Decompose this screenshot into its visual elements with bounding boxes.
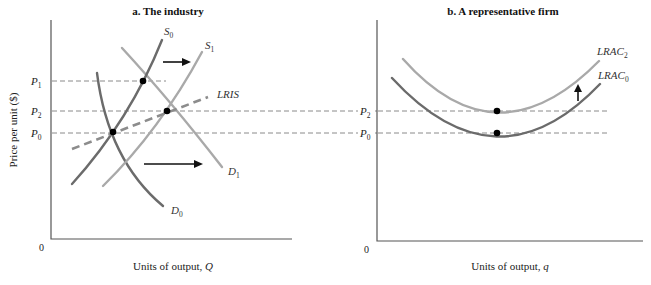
s0-label: S0: [164, 25, 174, 40]
supply-curve-s0: [72, 40, 162, 184]
panel-b-origin: 0: [364, 244, 369, 255]
lrac2-label: LRAC2: [596, 45, 628, 60]
panel-b-title: b. A representative firm: [447, 5, 558, 17]
cost-shift-arrow-icon: [574, 84, 582, 101]
supply-shift-arrow-icon: [163, 58, 191, 66]
p1-label: P1: [30, 75, 42, 90]
panel-representative-firm: b. A representative firm P2 P0 LRAC2 LRA…: [358, 5, 643, 272]
lrac0-minimum-point: [494, 130, 501, 137]
p0-label: P0: [30, 127, 42, 142]
s1-label: S1: [205, 39, 215, 54]
p2-label: P2: [30, 105, 42, 120]
lris-label: LRIS: [216, 88, 240, 100]
panel-a-title: a. The industry: [132, 5, 204, 17]
panel-b-x-label: Units of output, q: [471, 260, 549, 272]
equilibrium-point-p0: [110, 129, 117, 136]
d0-label: D0: [170, 204, 183, 219]
lrac0-label: LRAC0: [597, 69, 629, 84]
equilibrium-point-p2: [164, 108, 171, 115]
panel-a-origin: 0: [39, 242, 44, 253]
demand-shift-arrow-icon: [144, 160, 203, 168]
panel-a-x-label: Units of output, Q: [133, 260, 213, 272]
d1-label: D1: [227, 165, 240, 180]
figure: a. The industry Price per unit ($) P1 P2…: [0, 0, 651, 285]
y-axis-label: Price per unit ($): [7, 92, 20, 167]
lrac2-curve: [403, 59, 599, 113]
panel-industry: a. The industry Price per unit ($) P1 P2…: [7, 5, 378, 272]
equilibrium-point-p1: [140, 78, 147, 85]
lrac2-minimum-point: [494, 108, 501, 115]
